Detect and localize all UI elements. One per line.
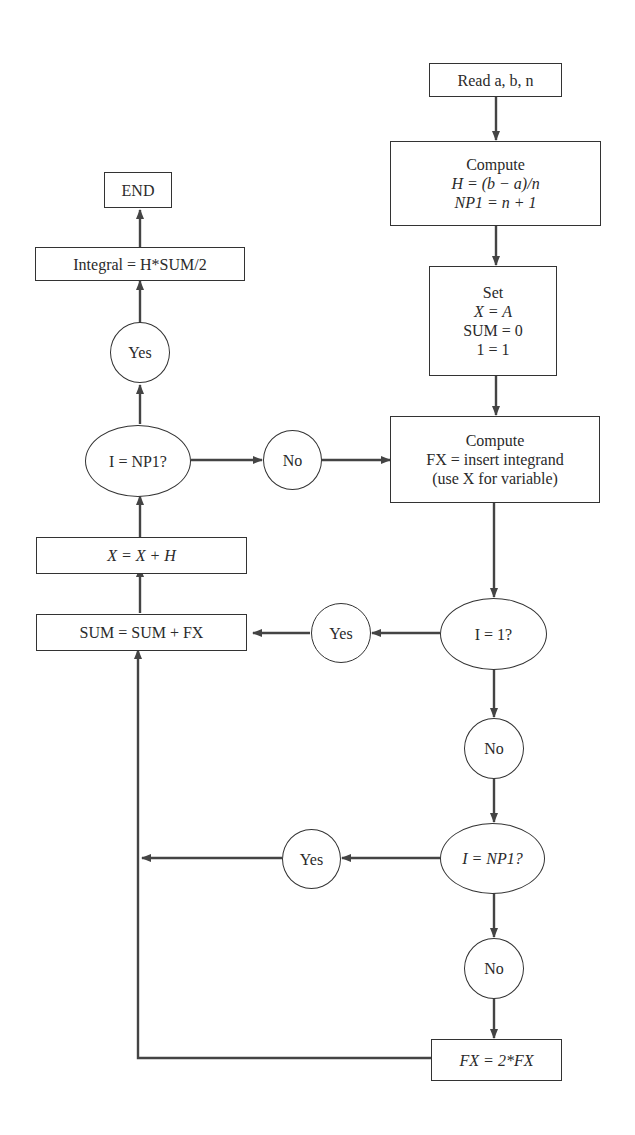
yes-connector-np1-right: Yes	[282, 829, 341, 889]
node-text: SUM = 0	[463, 321, 523, 340]
no-connector-i1: No	[464, 718, 524, 779]
node-text: I = NP1?	[109, 452, 167, 471]
node-text: Compute	[466, 431, 525, 450]
decision-i-equals-np1-right: I = NP1?	[440, 823, 545, 894]
node-text: No	[484, 959, 504, 978]
node-text: Compute	[466, 155, 525, 174]
node-text: (use X for variable)	[432, 469, 558, 488]
yes-connector-i1: Yes	[311, 603, 371, 663]
node-text: 1 = 1	[476, 340, 509, 359]
node-text: END	[122, 181, 155, 200]
node-text: Set	[483, 283, 503, 302]
node-text: Integral = H*SUM/2	[73, 255, 206, 274]
node-text: X = X + H	[107, 546, 176, 565]
integral-result-box: Integral = H*SUM/2	[35, 247, 245, 281]
node-text: Read a, b, n	[458, 71, 534, 90]
node-text: NP1 = n + 1	[454, 193, 536, 212]
sum-update-box: SUM = SUM + FX	[36, 614, 247, 651]
node-text: No	[484, 739, 504, 758]
node-text: SUM = SUM + FX	[80, 623, 204, 642]
decision-i-equals-1: I = 1?	[440, 598, 547, 670]
set-initial-box: Set X = A SUM = 0 1 = 1	[429, 266, 557, 376]
compute-fx-box: Compute FX = insert integrand (use X for…	[390, 416, 600, 503]
node-text: I = NP1?	[462, 849, 523, 868]
node-text: No	[283, 451, 303, 470]
node-text: FX = insert integrand	[426, 450, 563, 469]
node-text: Yes	[329, 624, 352, 643]
compute-h-box: Compute H = (b − a)/n NP1 = n + 1	[390, 141, 601, 226]
node-text: I = 1?	[475, 625, 512, 644]
no-connector-np1-right: No	[464, 938, 524, 999]
decision-i-equals-np1-left: I = NP1?	[85, 425, 191, 497]
end-box: END	[104, 172, 172, 208]
node-text: Yes	[128, 343, 151, 362]
no-connector-left: No	[263, 430, 322, 490]
node-text: H = (b − a)/n	[451, 174, 539, 193]
x-increment-box: X = X + H	[36, 537, 247, 574]
double-fx-box: FX = 2*FX	[431, 1039, 562, 1081]
node-text: Yes	[300, 850, 323, 869]
node-text: X = A	[474, 302, 512, 321]
read-inputs-box: Read a, b, n	[429, 63, 562, 97]
node-text: FX = 2*FX	[460, 1051, 534, 1070]
yes-connector-left: Yes	[110, 322, 170, 383]
